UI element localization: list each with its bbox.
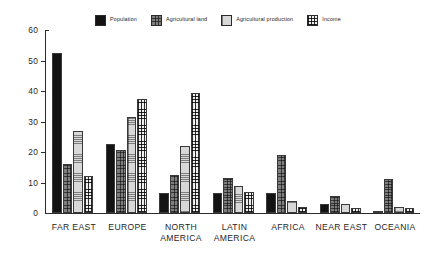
bar[interactable] [384, 179, 394, 213]
bar[interactable] [298, 207, 308, 213]
legend-label: Income [322, 17, 341, 22]
y-axis-tick-label: 40 [12, 87, 38, 95]
bar[interactable] [266, 193, 276, 213]
bar-groups [46, 30, 420, 213]
legend-item[interactable]: Agricultural production [221, 15, 293, 26]
bar[interactable] [180, 146, 190, 213]
bar[interactable] [73, 131, 83, 213]
chart-legend: PopulationAgricultural landAgricultural … [95, 13, 425, 27]
x-axis-label-line: AMERICA [203, 233, 267, 244]
bar-group [52, 30, 98, 213]
legend-swatch-icon [221, 15, 232, 26]
y-axis-tick [41, 183, 45, 184]
legend-label: Agricultural land [166, 17, 207, 22]
y-axis-tick-label: 50 [12, 57, 38, 65]
legend-swatch-icon [95, 15, 106, 26]
legend-item[interactable]: Population [95, 15, 137, 26]
bar[interactable] [191, 93, 201, 213]
bar[interactable] [287, 201, 297, 213]
y-axis-tick-label: 20 [12, 148, 38, 156]
x-axis-label-line: OCEANIA [363, 222, 427, 233]
bar[interactable] [373, 211, 383, 213]
x-axis-line [45, 213, 420, 214]
bar[interactable] [213, 193, 223, 213]
y-axis-tick [41, 61, 45, 62]
bar-group [106, 30, 152, 213]
bar[interactable] [106, 144, 116, 213]
legend-swatch-icon [151, 15, 162, 26]
legend-item[interactable]: Agricultural land [151, 15, 207, 26]
y-axis-tick-label: 60 [12, 26, 38, 34]
bar-group [373, 30, 419, 213]
bar[interactable] [223, 178, 233, 213]
bar[interactable] [52, 53, 62, 213]
bar[interactable] [137, 99, 147, 213]
bar[interactable] [394, 207, 404, 213]
bar[interactable] [351, 208, 361, 213]
bar-chart: PopulationAgricultural landAgricultural … [0, 0, 432, 265]
y-axis-tick [41, 152, 45, 153]
bar[interactable] [244, 192, 254, 213]
bar-group [266, 30, 312, 213]
y-axis-labels: 6050403020100 [8, 30, 38, 213]
bar[interactable] [127, 117, 137, 213]
bar[interactable] [330, 196, 340, 213]
y-axis-tick-label: 10 [12, 179, 38, 187]
y-axis-tick [45, 213, 49, 214]
y-axis-tick [41, 91, 45, 92]
x-axis-category-label: OCEANIA [363, 222, 427, 233]
x-axis-labels: FAR EASTEUROPENORTHAMERICALATINAMERICAAF… [45, 222, 425, 262]
legend-label: Agricultural production [236, 17, 293, 22]
bar-group [159, 30, 205, 213]
bar[interactable] [320, 204, 330, 213]
legend-swatch-icon [307, 15, 318, 26]
bar[interactable] [116, 150, 126, 213]
y-axis-tick-label: 0 [12, 209, 38, 217]
bar-group [320, 30, 366, 213]
bar[interactable] [63, 164, 73, 213]
bar[interactable] [84, 176, 94, 213]
bar[interactable] [170, 175, 180, 213]
bar[interactable] [341, 204, 351, 213]
bar[interactable] [405, 208, 415, 213]
y-axis-tick-label: 30 [12, 118, 38, 126]
y-axis-tick [41, 122, 45, 123]
plot-area [45, 30, 420, 213]
bar-group [213, 30, 259, 213]
bar[interactable] [277, 155, 287, 213]
bar[interactable] [234, 186, 244, 213]
legend-label: Population [110, 17, 137, 22]
legend-item[interactable]: Income [307, 15, 341, 26]
bar[interactable] [159, 193, 169, 213]
